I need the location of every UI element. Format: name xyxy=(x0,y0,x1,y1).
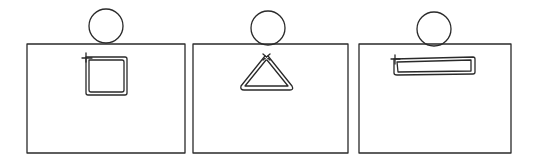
head-circle-icon xyxy=(251,11,285,45)
square-wire-icon xyxy=(82,53,127,95)
long-rectangle-wire-icon xyxy=(391,55,475,75)
head-circle-icon xyxy=(89,9,123,43)
head-circle-icon xyxy=(417,12,451,46)
panel-3 xyxy=(359,12,511,153)
panel-2 xyxy=(193,11,348,153)
triangle-wire-icon xyxy=(241,54,293,90)
panel-1 xyxy=(27,9,185,153)
diagram-canvas xyxy=(0,0,537,163)
